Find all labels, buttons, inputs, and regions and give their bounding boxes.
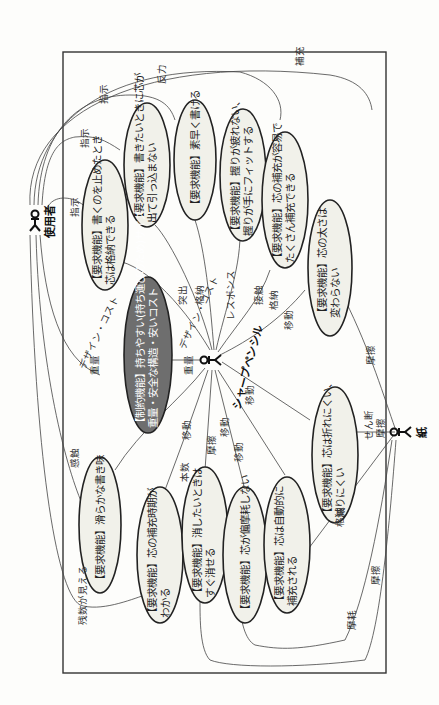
use-case-hard-to-break[interactable]: 【要求機能】芯は折れにくい、 減りにくい [312, 378, 358, 523]
constraint-size-weight-cost[interactable]: 【制約機能】持ちやすい(持ち運びのため)サイズ、 重量・安全な構造・安いコスト [124, 200, 172, 433]
label-hoju: 補充 [294, 46, 305, 66]
use-case-text: わかる [159, 588, 171, 618]
label-shiji-1: 指示 [98, 84, 109, 104]
actor-user-icon [30, 211, 40, 232]
use-case-stop-writing-retract[interactable]: 【要求機能】書くのを止めたとき 芯は格納できる [82, 135, 128, 290]
use-case-text: 【制約機能】持ちやすい(持ち運びのため)サイズ、 [134, 200, 146, 428]
use-case-text: 芯は格納できる [104, 215, 116, 285]
label-juryo-1: 重量 [183, 355, 194, 375]
label-kakuno-3: 格納 [334, 507, 345, 527]
use-case-text: 【要求機能】素早く書ける [189, 90, 201, 210]
label-masatsu-1: 摩擦 [206, 435, 217, 455]
use-case-text: 【要求機能】消したいときは [191, 468, 203, 598]
label-idou-2: 移動 [181, 420, 192, 440]
use-case-text: 【要求機能】芯の補充時期が [146, 487, 158, 618]
use-case-constant-thickness[interactable]: 【要求機能】芯の太さは 変わらない [308, 200, 352, 336]
use-case-write-fast[interactable]: 【要求機能】素早く書ける [174, 90, 216, 220]
actor-user[interactable]: 使用者 [30, 205, 57, 239]
label-idou-4: 移動 [219, 417, 230, 437]
use-case-text: 【要求機能】滑らかな書き味 [94, 454, 106, 585]
label-hanryoku: 反力 [156, 64, 167, 84]
label-honsu: 本数 [179, 462, 190, 482]
use-case-text: 握りが手にフィットする [242, 126, 254, 236]
use-case-refill-timing[interactable]: 【要求機能】芯の補充時期が わかる [137, 487, 183, 623]
use-case-text: 重量・安全な構造・安いコスト [147, 288, 159, 428]
use-case-text: 【要求機能】芯は自動的に [273, 486, 285, 606]
use-case-text: たくさん補充できる [284, 173, 296, 263]
label-setsuzoku: 接触 [253, 285, 264, 305]
use-case-text: 【要求機能】芯の太さは [316, 208, 328, 318]
label-mamou: 摩耗 [346, 610, 357, 630]
use-case-text: 変わらない [329, 268, 341, 318]
use-case-text: 【要求機能】書くのを止めたとき [91, 135, 103, 285]
label-masatsu-2: 摩擦 [375, 418, 386, 438]
use-case-text: 【要求機能】握りが疲れない、 [229, 96, 241, 236]
use-case-grip-fit[interactable]: 【要求機能】握りが疲れない、 握りが手にフィットする [220, 96, 266, 241]
actor-pencil-icon [201, 355, 222, 365]
label-shiji-2: 指示 [79, 128, 90, 148]
use-case-text: 出て引っ込まない [146, 143, 158, 223]
actor-paper[interactable]: 紙 [391, 427, 430, 438]
label-idou-1: 移動 [283, 310, 294, 330]
label-response: レスポンス [225, 270, 236, 320]
use-case-diagram: 【要求機能】書くのを止めたとき 芯は格納できる 【要求機能】書きたいときに芯が … [0, 0, 439, 705]
label-sendan: せん断 [363, 410, 374, 440]
use-case-text: 補充される [286, 556, 298, 606]
label-masatsu-4: 摩擦 [370, 565, 381, 585]
label-shiji-3: 指示 [69, 197, 80, 217]
use-case-text: 【要求機能】芯の補充が容易で [271, 123, 283, 263]
use-case-no-uneven-wear[interactable]: 【要求機能】芯が偏摩耗しない [223, 475, 267, 623]
actor-paper-name: 紙 [415, 427, 429, 438]
label-zansu: 残数が見える [77, 565, 88, 625]
use-case-text: 【要求機能】芯が偏摩耗しない [239, 475, 251, 615]
label-kakuno-2: 格納 [268, 290, 279, 310]
use-case-text: すぐ消せる [204, 548, 216, 598]
label-juryo-2: 重量 [89, 355, 100, 375]
label-idou-5: 移動 [233, 442, 244, 462]
label-idou-3: 移動 [244, 385, 255, 405]
label-masatsu-3: 摩擦 [365, 345, 376, 365]
use-case-easy-erase[interactable]: 【要求機能】消したいときは すぐ消せる [182, 467, 228, 603]
label-tosshutsu: 突出 [177, 285, 188, 305]
use-case-auto-refill[interactable]: 【要求機能】芯は自動的に 補充される [264, 477, 310, 613]
use-case-text: 【要求機能】芯は折れにくい、 [321, 378, 333, 518]
use-case-easy-refill[interactable]: 【要求機能】芯の補充が容易で たくさん補充できる [262, 123, 308, 268]
actor-user-name: 使用者 [43, 205, 57, 239]
label-kanshoku: 感触 [69, 448, 80, 468]
